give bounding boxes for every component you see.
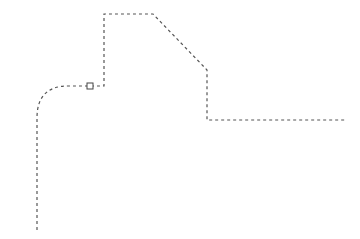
- dashed-path-diagram: [0, 0, 360, 239]
- square-node-marker[interactable]: [87, 83, 93, 89]
- dashed-route-path: [37, 14, 345, 230]
